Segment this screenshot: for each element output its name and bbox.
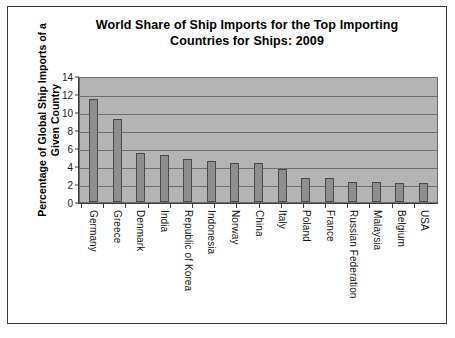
x-axis-tick-slot: [369, 204, 391, 208]
x-axis-tick-mark: [214, 204, 215, 208]
x-axis-label-slot: USA: [412, 210, 436, 320]
x-axis-label-slot: Indonesia: [199, 210, 223, 320]
bar-slot: [317, 78, 341, 202]
x-axis-label-slot: China: [247, 210, 271, 320]
y-axis-tick-label: 8: [67, 126, 73, 137]
bar-slot: [153, 78, 177, 202]
bar-slot: [82, 78, 106, 202]
chart-frame: World Share of Ship Imports for the Top …: [7, 6, 447, 324]
x-axis-label-slot: Poland: [294, 210, 318, 320]
bar-slot: [129, 78, 153, 202]
bar[interactable]: [113, 119, 122, 202]
x-axis-tick-mark: [414, 204, 415, 208]
x-axis-tick-slot: [303, 204, 325, 208]
x-axis-tick-slot: [214, 204, 236, 208]
bar-series: [80, 78, 437, 202]
bar[interactable]: [348, 182, 357, 202]
bar[interactable]: [325, 178, 334, 202]
bar[interactable]: [160, 155, 169, 202]
x-axis-category-label: India: [158, 210, 169, 232]
bar[interactable]: [395, 183, 404, 202]
y-axis-tick-label: 12: [62, 90, 73, 101]
x-axis-category-label: Denmark: [135, 210, 146, 251]
bar[interactable]: [207, 161, 216, 202]
x-axis-tick-slot: [347, 204, 369, 208]
x-axis-tick-mark: [347, 204, 348, 208]
bar[interactable]: [136, 153, 145, 203]
bar[interactable]: [372, 182, 381, 202]
y-axis-tick-label: 0: [67, 198, 73, 209]
bar-slot: [106, 78, 130, 202]
bar[interactable]: [230, 163, 239, 202]
x-axis-label-slot: Denmark: [128, 210, 152, 320]
x-axis-tick-slot: [392, 204, 414, 208]
x-axis-category-label: Russian Federation: [348, 210, 359, 299]
bar-slot: [341, 78, 365, 202]
x-axis-category-label: USA: [419, 210, 430, 231]
x-axis-label-slot: India: [152, 210, 176, 320]
x-axis-tick-slot: [281, 204, 303, 208]
chart-title-line-1: World Share of Ship Imports for the Top …: [56, 17, 438, 33]
x-axis-category-label: China: [253, 210, 264, 237]
bar-slot: [176, 78, 200, 202]
x-axis-label-slot: France: [318, 210, 342, 320]
x-axis-category-label: France: [324, 210, 335, 242]
y-axis-tick-label: 14: [62, 72, 73, 83]
x-axis-label-slot: Malaysia: [365, 210, 389, 320]
x-axis-category-label: Malaysia: [371, 210, 382, 250]
x-axis-category-label: Poland: [300, 210, 311, 242]
bar-slot: [200, 78, 224, 202]
x-axis-tick-mark: [392, 204, 393, 208]
x-axis-tick-mark: [170, 204, 171, 208]
x-axis-tick-slot: [192, 204, 214, 208]
x-axis-tick-slot: [325, 204, 347, 208]
x-axis-label-slot: Norway: [223, 210, 247, 320]
bar-slot: [294, 78, 318, 202]
bar[interactable]: [254, 163, 263, 202]
x-axis-tick-mark: [325, 204, 326, 208]
x-axis-category-label: Greece: [111, 210, 122, 243]
bar-slot: [388, 78, 412, 202]
x-axis-category-label: Germany: [87, 210, 98, 252]
x-axis-tick-slot: [170, 204, 192, 208]
bar[interactable]: [183, 159, 192, 202]
x-axis-ticks: [79, 204, 438, 208]
x-axis-category-label: Italy: [277, 210, 288, 229]
bar[interactable]: [419, 183, 428, 202]
x-axis-label-slot: Greece: [105, 210, 129, 320]
bar[interactable]: [278, 169, 287, 202]
plot-area: [79, 77, 438, 203]
x-axis-category-label: Republic of Korea: [182, 210, 193, 291]
bar-slot: [411, 78, 435, 202]
bar-slot: [223, 78, 247, 202]
x-axis-tick-slot: [103, 204, 125, 208]
bar[interactable]: [301, 178, 310, 202]
x-axis-category-labels: GermanyGreeceDenmarkIndiaRepublic of Kor…: [79, 210, 438, 320]
x-axis-label-slot: Italy: [270, 210, 294, 320]
y-axis-tick-label: 2: [67, 180, 73, 191]
y-axis: 02468101214: [44, 77, 79, 203]
x-axis-tick-slot: [236, 204, 258, 208]
x-axis-tick-slot: [259, 204, 281, 208]
bar[interactable]: [89, 99, 98, 203]
x-axis-label-slot: Republic of Korea: [176, 210, 200, 320]
y-axis-tick-label: 4: [67, 162, 73, 173]
x-axis-tick-slot: [148, 204, 170, 208]
x-axis-tick-slot: [125, 204, 147, 208]
bar-slot: [364, 78, 388, 202]
y-axis-tick-label: 10: [62, 108, 73, 119]
x-axis-tick-slot: [414, 204, 436, 208]
x-axis-tick-slot: [81, 204, 103, 208]
chart-title-line-2: Countries for Ships: 2009: [56, 33, 438, 49]
x-axis-tick-mark: [369, 204, 370, 208]
x-axis-label-slot: Germany: [81, 210, 105, 320]
x-axis-tick-mark: [303, 204, 304, 208]
x-axis-tick-mark: [81, 204, 82, 208]
y-axis-tick-label: 6: [67, 144, 73, 155]
x-axis-tick-mark: [281, 204, 282, 208]
x-axis-category-label: Belgium: [395, 210, 406, 247]
x-axis-tick-mark: [125, 204, 126, 208]
x-axis-tick-mark: [148, 204, 149, 208]
bar-slot: [270, 78, 294, 202]
chart-title: World Share of Ship Imports for the Top …: [56, 17, 438, 49]
